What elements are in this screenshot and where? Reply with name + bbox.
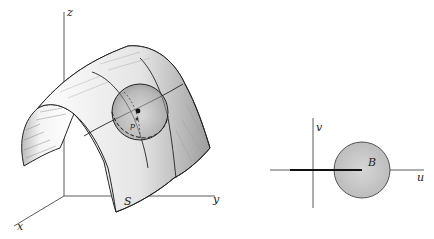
figure: z x y S p v u B: [0, 0, 434, 239]
u-axis-label: u: [417, 171, 424, 184]
left-panel: z x y S p: [14, 6, 220, 233]
right-panel: v u B: [270, 118, 424, 208]
point-label: p: [130, 121, 135, 130]
x-axis-label: x: [17, 220, 24, 233]
surface-s: [22, 46, 210, 212]
point-p: [136, 109, 141, 114]
surface-label: S: [124, 195, 132, 208]
disk-label: B: [367, 156, 376, 169]
sphere: [112, 84, 168, 140]
v-axis-label: v: [316, 121, 323, 134]
z-axis-label: z: [66, 6, 73, 19]
y-axis-label: y: [212, 193, 220, 206]
